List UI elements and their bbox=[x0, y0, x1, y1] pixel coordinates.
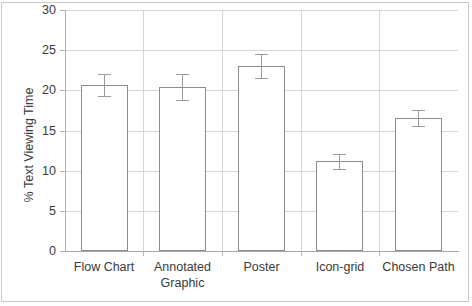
x-tick-4 bbox=[379, 251, 380, 256]
error-bar-flow-chart bbox=[104, 74, 105, 96]
plot-area bbox=[65, 10, 458, 251]
x-axis-label-annotated-graphic: Annotated Graphic bbox=[143, 259, 222, 291]
bar-flow-chart[interactable] bbox=[81, 85, 128, 251]
error-cap-bottom-poster bbox=[255, 78, 268, 79]
category-divider-3 bbox=[301, 10, 302, 251]
bar-poster[interactable] bbox=[238, 66, 285, 251]
y-tick-mark-15 bbox=[60, 131, 65, 132]
y-tick-label-30: 30 bbox=[10, 4, 56, 16]
y-tick-mark-0 bbox=[60, 251, 65, 252]
y-tick-mark-30 bbox=[60, 10, 65, 11]
x-axis-line bbox=[65, 251, 459, 252]
x-axis-label-flow-chart: Flow Chart bbox=[65, 259, 143, 275]
y-tick-mark-20 bbox=[60, 90, 65, 91]
x-tick-1 bbox=[143, 251, 144, 256]
y-tick-label-5: 5 bbox=[10, 205, 56, 217]
error-cap-bottom-flow-chart bbox=[98, 96, 111, 97]
category-divider-1 bbox=[143, 10, 144, 251]
category-divider-4 bbox=[379, 10, 380, 251]
y-tick-label-25: 25 bbox=[10, 44, 56, 56]
error-bar-poster bbox=[261, 54, 262, 78]
y-tick-mark-5 bbox=[60, 211, 65, 212]
gridline-25 bbox=[65, 50, 458, 51]
bar-chart-figure: % Text Viewing Time bbox=[0, 0, 472, 306]
y-tick-label-15: 15 bbox=[10, 125, 56, 137]
category-divider-2 bbox=[222, 10, 223, 251]
error-cap-top-poster bbox=[255, 54, 268, 55]
y-tick-mark-25 bbox=[60, 50, 65, 51]
gridline-30 bbox=[65, 10, 458, 11]
y-tick-label-10: 10 bbox=[10, 165, 56, 177]
error-cap-top-icon-grid bbox=[333, 154, 346, 155]
x-axis-label-icon-grid: Icon-grid bbox=[301, 259, 379, 275]
x-axis-label-poster: Poster bbox=[222, 259, 301, 275]
y-tick-label-20: 20 bbox=[10, 84, 56, 96]
error-cap-top-chosen-path bbox=[412, 110, 425, 111]
x-tick-2 bbox=[222, 251, 223, 256]
error-cap-bottom-annotated-graphic bbox=[176, 100, 189, 101]
bar-chosen-path[interactable] bbox=[395, 118, 442, 251]
error-bar-chosen-path bbox=[418, 110, 419, 126]
error-cap-top-flow-chart bbox=[98, 74, 111, 75]
error-bar-icon-grid bbox=[339, 154, 340, 169]
error-cap-bottom-chosen-path bbox=[412, 126, 425, 127]
error-cap-top-annotated-graphic bbox=[176, 74, 189, 75]
bar-icon-grid[interactable] bbox=[316, 161, 363, 251]
x-axis-label-chosen-path: Chosen Path bbox=[379, 259, 458, 275]
bar-annotated-graphic[interactable] bbox=[159, 87, 206, 251]
error-bar-annotated-graphic bbox=[182, 74, 183, 100]
y-tick-mark-10 bbox=[60, 171, 65, 172]
x-tick-3 bbox=[301, 251, 302, 256]
error-cap-bottom-icon-grid bbox=[333, 169, 346, 170]
y-axis-line bbox=[65, 10, 66, 252]
y-tick-label-0: 0 bbox=[10, 245, 56, 257]
